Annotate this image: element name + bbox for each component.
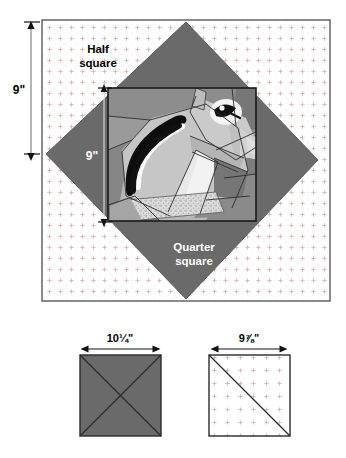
half-square-label-line1: Half [87, 43, 109, 55]
inner-dimension-label: 9" [86, 149, 98, 163]
quarter-square-label-line2: square [175, 255, 213, 267]
quilt-diagram-svg: 9" 9" Half square Quarter square 10¼" [0, 0, 346, 458]
main-setting-panel: 9" 9" Half square Quarter square [13, 20, 330, 301]
outer-dimension-9in: 9" [13, 21, 40, 161]
half-square-label-line2: square [79, 57, 117, 69]
half-square-cut: 9⅞" [209, 332, 290, 436]
quarter-square-label-line1: Quarter [173, 241, 215, 253]
quarter-square-cut: 10¼" [80, 332, 161, 436]
half-square-cut-label: 9⅞" [239, 332, 260, 344]
diagram-canvas: 9" 9" Half square Quarter square 10¼" [0, 0, 346, 458]
pieced-squirrel-block [108, 88, 258, 221]
outer-dimension-label: 9" [13, 83, 25, 97]
quarter-square-cut-label: 10¼" [107, 332, 134, 344]
